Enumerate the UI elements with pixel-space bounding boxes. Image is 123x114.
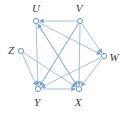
edge-arrowhead-icon (81, 81, 86, 86)
node-label-z: Z (8, 45, 14, 56)
node-label-x: X (75, 97, 82, 108)
graph-node-v[interactable] (77, 18, 82, 23)
edge-arrowhead-icon (71, 86, 75, 91)
node-label-u: U (32, 3, 40, 14)
edge-layer (22, 18, 102, 91)
graph-edge (82, 24, 102, 53)
graph-edge (81, 59, 102, 86)
node-label-v: V (76, 3, 83, 14)
graph-edge (79, 25, 80, 86)
node-label-y: Y (34, 97, 40, 108)
graph-node-u[interactable] (33, 18, 38, 23)
graph-figure: UVWZYX (0, 0, 123, 114)
graph-edge (38, 24, 77, 86)
graph-node-z[interactable] (18, 48, 23, 53)
graph-node-w[interactable] (101, 53, 106, 58)
graph-edge (22, 54, 36, 86)
edge-arrowhead-icon (77, 81, 82, 85)
edge-arrowhead-icon (38, 24, 42, 29)
graph-edge (36, 25, 38, 86)
graph-node-x[interactable] (76, 86, 81, 91)
graph-node-y[interactable] (35, 86, 40, 91)
graph-canvas (0, 0, 123, 114)
graph-edge (40, 24, 78, 86)
node-label-w: W (109, 52, 118, 63)
node-layer (18, 18, 106, 91)
